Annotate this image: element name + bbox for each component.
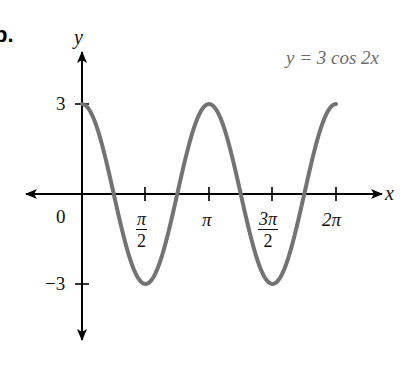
x-tick-label-2pi: 2π xyxy=(322,210,341,229)
origin-label: 0 xyxy=(56,207,66,226)
x-tick-label-3pi-over-2: 3π 2 xyxy=(258,210,278,250)
x-axis-label: x xyxy=(385,183,394,203)
y-tick-label-neg3: −3 xyxy=(45,274,65,293)
y-tick-label-3: 3 xyxy=(56,94,66,113)
equation-label: y = 3 cos 2x xyxy=(286,47,379,69)
x-tick-label-pi-over-2: π 2 xyxy=(136,210,147,250)
x-tick-label-pi: π xyxy=(202,210,212,229)
y-axis-label: y xyxy=(74,27,83,47)
cosine-graph-figure: b. y x 3 −3 0 π 2 π 3π 2 2π y = 3 xyxy=(0,0,413,370)
